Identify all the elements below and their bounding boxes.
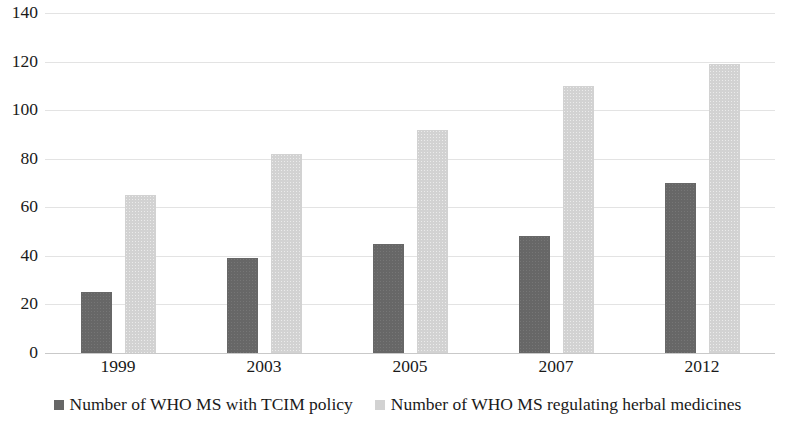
x-tick-label: 2005 [393,358,428,376]
bar [417,130,448,353]
bar [125,195,156,353]
bar-chart: 020406080100120140 19992003200520072012 … [0,0,795,425]
x-tick-label: 1999 [101,358,136,376]
bar [563,86,594,353]
y-tick-label: 120 [12,53,38,71]
x-tick-label: 2007 [539,358,574,376]
y-tick-label: 60 [21,199,39,217]
legend-item[interactable]: Number of WHO MS with TCIM policy [54,396,353,414]
bar [665,183,696,353]
bar-group [483,13,629,353]
y-axis: 020406080100120140 [0,13,38,353]
legend-item[interactable]: Number of WHO MS regulating herbal medic… [375,396,742,414]
legend-swatch-icon [54,400,64,410]
bar-group [629,13,775,353]
bar [227,258,258,353]
bar-group [45,13,191,353]
bars-layer [45,13,775,353]
bar [709,64,740,353]
bar [271,154,302,353]
legend-label: Number of WHO MS with TCIM policy [70,396,353,414]
y-tick-label: 0 [29,344,38,362]
axis-baseline [45,353,775,354]
y-tick-label: 140 [12,4,38,22]
bar-group [191,13,337,353]
y-tick-label: 80 [21,150,39,168]
bar-group [337,13,483,353]
y-tick-label: 100 [12,101,38,119]
bar [519,236,550,353]
x-tick-label: 2012 [685,358,720,376]
x-axis: 19992003200520072012 [45,358,775,384]
bar [81,292,112,353]
bar [373,244,404,353]
legend-label: Number of WHO MS regulating herbal medic… [391,396,742,414]
y-tick-label: 40 [21,247,39,265]
y-tick-label: 20 [21,296,39,314]
chart-legend: Number of WHO MS with TCIM policyNumber … [0,396,795,414]
legend-swatch-icon [375,400,385,410]
x-tick-label: 2003 [247,358,282,376]
